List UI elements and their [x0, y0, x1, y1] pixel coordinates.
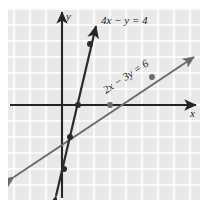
point-on-line-2 — [149, 74, 155, 80]
point-on-line-2 — [107, 102, 113, 108]
point-on-line-1 — [87, 41, 93, 47]
equation-label-line-1: 4x − y = 4 — [101, 14, 148, 26]
point-on-line-1 — [67, 134, 73, 140]
point-on-line-1 — [75, 102, 81, 108]
y-axis-label: y — [65, 10, 71, 22]
x-axis-label: x — [189, 107, 195, 119]
point-on-line-1 — [61, 166, 67, 172]
graph-figure: y x 4x − y = 4 2x − 3y = 6 — [0, 0, 210, 214]
coordinate-graph-svg: y x 4x − y = 4 2x − 3y = 6 — [0, 0, 210, 214]
